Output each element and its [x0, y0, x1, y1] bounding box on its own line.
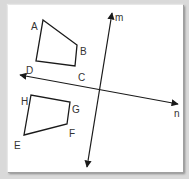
reflection-diagram: ABCDEFGHmn [0, 0, 189, 179]
vertex-label-e: E [14, 140, 21, 151]
vertex-label-h: H [21, 96, 28, 107]
vertex-label-d: D [26, 65, 33, 76]
line-n [20, 75, 178, 104]
quadrilateral-efgh [24, 95, 70, 135]
vertex-label-b: B [80, 46, 87, 57]
vertex-label-a: A [31, 21, 38, 32]
vertex-label-f: F [69, 128, 75, 139]
line-label-m: m [115, 12, 123, 23]
vertex-label-c: C [78, 72, 85, 83]
quadrilateral-abcd [36, 20, 77, 66]
line-label-n: n [174, 108, 180, 119]
vertex-label-g: G [72, 104, 80, 115]
